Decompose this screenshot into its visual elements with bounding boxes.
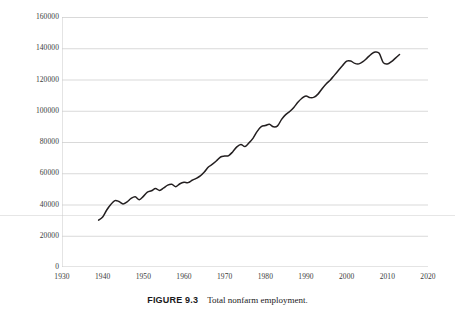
- y-tick-label: 40000: [1, 201, 59, 209]
- x-tick-label: 1930: [42, 272, 82, 281]
- x-tick-label: 2020: [408, 272, 448, 281]
- x-tick-label: 1980: [245, 272, 285, 281]
- x-tick-label: 2000: [327, 272, 367, 281]
- x-tick-label: 2010: [367, 272, 407, 281]
- y-tick-label: 0: [1, 263, 59, 271]
- x-tick-label: 1940: [83, 272, 123, 281]
- y-tick-label: 100000: [1, 107, 59, 115]
- figure-number: FIGURE 9.3: [147, 295, 198, 305]
- x-tick-label: 1950: [123, 272, 163, 281]
- y-tick-label: 60000: [1, 169, 59, 177]
- chart-svg: [62, 17, 428, 267]
- plot-area: [62, 17, 428, 267]
- figure-title: Total nonfarm employment.: [207, 295, 308, 305]
- x-tick-label: 1990: [286, 272, 326, 281]
- y-tick-label: 80000: [1, 138, 59, 146]
- figure-total-nonfarm-employment: 0200004000060000800001000001200001400001…: [0, 0, 455, 311]
- figure-caption: FIGURE 9.3Total nonfarm employment.: [0, 289, 455, 307]
- x-tick-label: 1970: [205, 272, 245, 281]
- y-tick-label: 20000: [1, 232, 59, 240]
- data-line-total-nonfarm-employment: [99, 52, 400, 220]
- y-tick-label: 140000: [1, 44, 59, 52]
- gridlines: [62, 18, 428, 237]
- y-axis-tick-labels: 0200004000060000800001000001200001400001…: [0, 17, 59, 267]
- y-tick-label: 120000: [1, 76, 59, 84]
- y-tick-label: 160000: [1, 13, 59, 21]
- x-tick-label: 1960: [164, 272, 204, 281]
- x-axis-tick-labels: 1930194019501960197019801990200020102020: [62, 272, 428, 284]
